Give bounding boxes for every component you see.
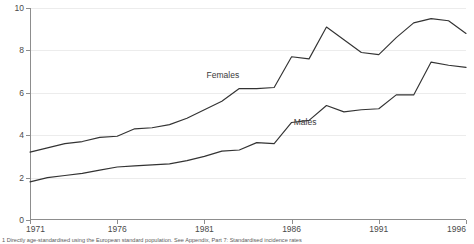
chart-footnote: 1 Directly age-standardised using the Eu… <box>2 237 302 244</box>
x-tick-label: 1981 <box>195 225 214 234</box>
series-line-females <box>30 19 466 153</box>
y-tick-label: 4 <box>19 131 24 140</box>
plot-area: 0246810 197119761981198619911996 Females… <box>30 8 466 220</box>
y-tick-label: 2 <box>19 173 24 182</box>
x-tick-label: 1986 <box>282 225 301 234</box>
line-chart: 0246810 197119761981198619911996 Females… <box>0 0 474 244</box>
x-tick-label: 1976 <box>108 225 127 234</box>
y-tick-label: 8 <box>19 46 24 55</box>
series-label-females: Females <box>207 71 240 80</box>
series-lines <box>30 8 466 220</box>
y-tick-label: 6 <box>19 89 24 98</box>
y-tick-label: 10 <box>15 4 24 13</box>
x-tick <box>466 220 467 224</box>
x-tick-label: 1996 <box>447 225 466 234</box>
x-tick-label: 1991 <box>369 225 388 234</box>
series-line-males <box>30 62 466 182</box>
series-label-males: Males <box>294 118 317 127</box>
x-tick-label: 1971 <box>26 225 45 234</box>
y-tick-label: 0 <box>19 216 24 225</box>
